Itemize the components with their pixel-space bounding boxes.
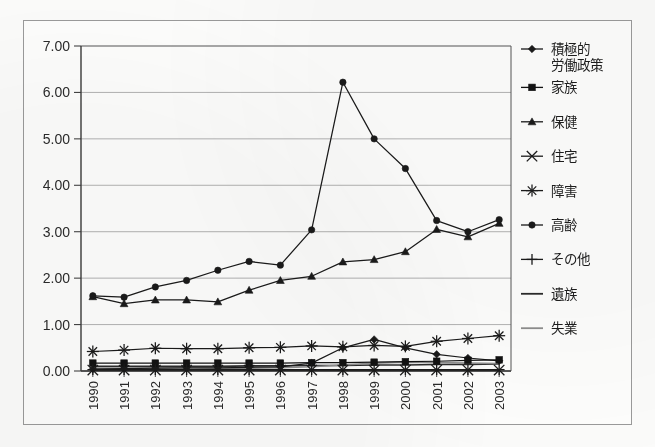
legend-label: 失業 — [551, 320, 578, 336]
x-tick-label: 1992 — [148, 381, 163, 410]
marker-circle — [402, 165, 408, 171]
legend-label-line2: 労働政策 — [551, 57, 604, 73]
legend-label: その他 — [551, 251, 590, 267]
marker-asterisk — [368, 339, 380, 351]
marker-asterisk — [181, 343, 193, 355]
marker-square — [496, 357, 503, 364]
legend-label: 障害 — [551, 183, 577, 199]
marker-circle — [308, 227, 314, 233]
x-tick-label: 1997 — [305, 381, 320, 410]
marker-triangle — [433, 225, 441, 232]
legend-item-6[interactable]: 高齢 — [521, 217, 578, 233]
y-tick-label: 5.00 — [43, 131, 70, 147]
marker-circle — [340, 79, 346, 85]
marker-asterisk — [87, 346, 99, 358]
marker-circle — [496, 216, 502, 222]
x-tick-label: 2000 — [398, 381, 413, 410]
x-tick-label: 2003 — [492, 381, 507, 410]
marker-circle — [246, 258, 252, 264]
y-tick-label: 1.00 — [43, 317, 70, 333]
marker-asterisk — [431, 335, 443, 347]
x-tick-label: 1995 — [242, 381, 257, 410]
legend-label: 保健 — [551, 114, 577, 130]
legend: 積極的労働政策家族保健住宅障害高齢その他遺族失業 — [521, 41, 604, 336]
marker-asterisk — [526, 185, 538, 197]
marker-asterisk — [243, 342, 255, 354]
x-axis-labels: 1990199119921993199419951996199719981999… — [86, 371, 507, 410]
marker-asterisk — [306, 340, 318, 352]
legend-item-3[interactable]: 保健 — [521, 114, 577, 130]
marker-asterisk — [118, 344, 130, 356]
x-tick-label: 1990 — [86, 381, 101, 410]
marker-triangle — [402, 248, 410, 255]
legend-item-2[interactable]: 家族 — [521, 79, 578, 95]
y-tick-label: 3.00 — [43, 224, 70, 240]
marker-asterisk — [493, 330, 505, 342]
series-3 — [89, 219, 503, 306]
x-tick-label: 2002 — [461, 381, 476, 410]
marker-circle — [433, 217, 439, 223]
series-6 — [90, 79, 503, 300]
marker-asterisk — [399, 340, 411, 352]
marker-square — [433, 358, 440, 365]
legend-label: 高齢 — [551, 217, 578, 233]
x-tick-label: 1991 — [117, 381, 132, 410]
x-tick-label: 1994 — [211, 381, 226, 410]
y-tick-label: 2.00 — [43, 270, 70, 286]
legend-item-8[interactable]: 遺族 — [521, 286, 578, 302]
marker-diamond — [528, 45, 535, 52]
legend-label: 遺族 — [551, 286, 578, 302]
x-tick-label: 1999 — [367, 381, 382, 410]
marker-triangle — [308, 272, 316, 279]
marker-circle — [277, 262, 283, 268]
marker-plus — [527, 254, 538, 265]
legend-label: 家族 — [551, 79, 578, 95]
y-tick-label: 0.00 — [43, 363, 70, 379]
marker-circle — [215, 267, 221, 273]
x-tick-label: 1996 — [273, 381, 288, 410]
legend-item-4[interactable]: 住宅 — [521, 148, 577, 164]
legend-item-5[interactable]: 障害 — [521, 183, 577, 199]
y-tick-label: 7.00 — [43, 38, 70, 54]
series-5 — [87, 330, 505, 358]
marker-asterisk — [462, 333, 474, 345]
marker-diamond — [433, 351, 440, 358]
series-line — [93, 82, 499, 297]
marker-square — [402, 358, 409, 365]
legend-item-7[interactable]: その他 — [521, 251, 590, 267]
marker-circle — [90, 293, 96, 299]
marker-asterisk — [149, 342, 161, 354]
legend-label: 住宅 — [551, 148, 577, 164]
y-gridlines: 7.006.005.004.003.002.001.000.00 — [43, 38, 511, 379]
line-chart: 7.006.005.004.003.002.001.000.0019901991… — [24, 21, 631, 424]
legend-item-1[interactable]: 積極的労働政策 — [521, 41, 604, 73]
marker-asterisk — [212, 343, 224, 355]
marker-asterisk — [274, 341, 286, 353]
marker-square — [465, 357, 472, 364]
marker-circle — [529, 222, 535, 228]
legend-label: 積極的 — [551, 41, 590, 57]
chart-frame: 7.006.005.004.003.002.001.000.0019901991… — [23, 20, 632, 425]
x-tick-label: 1998 — [336, 381, 351, 410]
marker-circle — [121, 294, 127, 300]
y-tick-label: 6.00 — [43, 84, 70, 100]
legend-item-9[interactable]: 失業 — [521, 320, 578, 336]
marker-circle — [465, 229, 471, 235]
y-tick-label: 4.00 — [43, 177, 70, 193]
marker-square — [529, 84, 536, 91]
x-tick-label: 2001 — [430, 381, 445, 410]
marker-asterisk — [337, 341, 349, 353]
marker-circle — [152, 284, 158, 290]
marker-circle — [183, 277, 189, 283]
marker-circle — [371, 136, 377, 142]
x-tick-label: 1993 — [180, 381, 195, 410]
series-line — [93, 223, 499, 303]
